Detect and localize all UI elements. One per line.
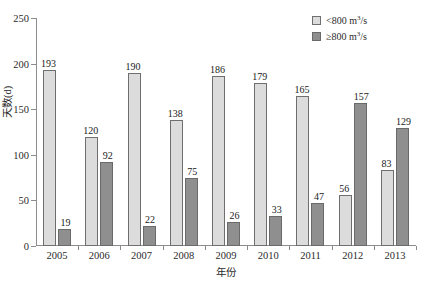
bar[interactable] bbox=[227, 222, 240, 246]
x-tick-label: 2010 bbox=[258, 250, 279, 261]
bar[interactable] bbox=[58, 229, 71, 246]
bar-value-label: 22 bbox=[145, 214, 155, 225]
cropped-caption-text bbox=[0, 0, 426, 9]
bar-value-label: 193 bbox=[41, 58, 56, 69]
y-tick bbox=[31, 18, 36, 19]
x-tick bbox=[163, 246, 164, 250]
y-tick bbox=[31, 246, 36, 247]
bar[interactable] bbox=[269, 216, 282, 246]
y-axis-title: 天数(d) bbox=[0, 86, 14, 118]
x-tick-label: 2013 bbox=[384, 250, 405, 261]
y-tick bbox=[31, 155, 36, 156]
bar[interactable] bbox=[296, 96, 309, 246]
plot-area: 050100150200250 200520062007200820092010… bbox=[36, 18, 416, 246]
legend-swatch-light bbox=[312, 16, 321, 25]
bar[interactable] bbox=[43, 70, 56, 246]
y-tick-label: 150 bbox=[13, 104, 29, 115]
legend: <800 m3/s ≥800 m3/s bbox=[312, 14, 367, 46]
bar-value-label: 186 bbox=[210, 64, 225, 75]
bar-value-label: 165 bbox=[294, 84, 309, 95]
bar-value-label: 190 bbox=[126, 61, 141, 72]
bar-value-label: 19 bbox=[61, 217, 71, 228]
y-tick-label: 100 bbox=[13, 149, 29, 160]
bar-value-label: 26 bbox=[230, 210, 240, 221]
bar-value-label: 56 bbox=[339, 183, 349, 194]
x-tick-label: 2007 bbox=[131, 250, 152, 261]
y-tick bbox=[31, 109, 36, 110]
bar-value-label: 47 bbox=[314, 191, 324, 202]
bar[interactable] bbox=[311, 203, 324, 246]
y-tick bbox=[31, 64, 36, 65]
bar[interactable] bbox=[143, 226, 156, 246]
bar-value-label: 33 bbox=[272, 204, 282, 215]
bar[interactable] bbox=[354, 103, 367, 246]
bar[interactable] bbox=[396, 128, 409, 246]
x-tick-label: 2011 bbox=[300, 250, 321, 261]
x-tick bbox=[78, 246, 79, 250]
x-tick bbox=[205, 246, 206, 250]
legend-label-below-800: <800 m3/s bbox=[326, 14, 367, 26]
x-tick bbox=[120, 246, 121, 250]
bar[interactable] bbox=[170, 120, 183, 246]
bar[interactable] bbox=[85, 137, 98, 246]
legend-label-above-800: ≥800 m3/s bbox=[326, 30, 367, 42]
x-tick bbox=[374, 246, 375, 250]
bar-value-label: 157 bbox=[354, 91, 369, 102]
bar[interactable] bbox=[100, 162, 113, 246]
bar[interactable] bbox=[212, 76, 225, 246]
legend-item-above-800[interactable]: ≥800 m3/s bbox=[312, 30, 367, 43]
x-axis-title: 年份 bbox=[36, 264, 416, 279]
bar-value-label: 83 bbox=[381, 158, 391, 169]
bar[interactable] bbox=[381, 170, 394, 246]
y-tick bbox=[31, 200, 36, 201]
x-tick bbox=[416, 246, 417, 250]
x-tick-label: 2008 bbox=[173, 250, 194, 261]
y-tick-label: 0 bbox=[24, 241, 29, 252]
bar-value-label: 120 bbox=[83, 125, 98, 136]
y-tick-label: 200 bbox=[13, 58, 29, 69]
legend-item-below-800[interactable]: <800 m3/s bbox=[312, 14, 367, 27]
bar-value-label: 138 bbox=[168, 108, 183, 119]
x-tick-label: 2009 bbox=[216, 250, 237, 261]
bar-value-label: 75 bbox=[187, 166, 197, 177]
bar-chart: 天数(d) 050100150200250 200520062007200820… bbox=[0, 0, 426, 295]
bar[interactable] bbox=[254, 83, 267, 246]
bar[interactable] bbox=[128, 73, 141, 246]
x-tick bbox=[332, 246, 333, 250]
y-tick-label: 50 bbox=[19, 195, 30, 206]
bar-value-label: 92 bbox=[103, 150, 113, 161]
y-tick-label: 250 bbox=[13, 13, 29, 24]
bar-value-label: 179 bbox=[252, 71, 267, 82]
x-tick bbox=[247, 246, 248, 250]
x-tick bbox=[289, 246, 290, 250]
y-axis-line bbox=[36, 18, 37, 246]
x-tick-label: 2012 bbox=[342, 250, 363, 261]
bar[interactable] bbox=[185, 178, 198, 246]
x-tick-label: 2006 bbox=[89, 250, 110, 261]
legend-swatch-dark bbox=[312, 32, 321, 41]
bar-value-label: 129 bbox=[396, 116, 411, 127]
x-tick-label: 2005 bbox=[47, 250, 68, 261]
bar[interactable] bbox=[339, 195, 352, 246]
